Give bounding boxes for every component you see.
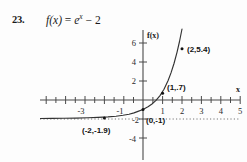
data-point-0--1 <box>142 108 145 111</box>
problem-number: 23. <box>12 14 25 25</box>
x-tick-label-3: 3 <box>199 106 203 116</box>
y-tick-label--4: -4 <box>129 134 137 144</box>
point-label--2--1.9: (-2,-1.9) <box>82 126 111 135</box>
x-axis-label: x <box>236 85 240 94</box>
y-tick-label-6: 6 <box>132 38 136 48</box>
point-label-2-5.4: (2,5.4) <box>187 45 210 54</box>
function-graph: f(x) x -3 -1 1 2 3 4 5 6 4 2 -2 -4 (2,5.… <box>40 28 247 162</box>
problem-page: 23. f(x) = ex − 2 <box>0 0 247 162</box>
x-tick-label-5: 5 <box>238 106 242 116</box>
y-tick-label--2: -2 <box>132 115 139 125</box>
y-tick-label-2: 2 <box>132 76 136 86</box>
x-tick-label-2: 2 <box>180 106 184 116</box>
y-tick-label-4: 4 <box>132 57 137 67</box>
point-label-0--1: (0,-1) <box>146 116 165 125</box>
x-tick-label-1: 1 <box>160 106 164 116</box>
x-tick-label--1: -1 <box>116 106 123 116</box>
problem-formula: f(x) = ex − 2 <box>46 12 101 26</box>
y-axis-label: f(x) <box>147 31 159 40</box>
point-label-1-0.7: (1,.7) <box>167 83 186 92</box>
data-point-1-0.7 <box>161 92 164 95</box>
formula-tail: − 2 <box>83 14 101 26</box>
x-tick-label--3: -3 <box>77 106 84 116</box>
data-point-2-5.4 <box>181 47 184 50</box>
graph-svg: f(x) x -3 -1 1 2 3 4 5 6 4 2 -2 -4 (2,5.… <box>40 28 247 162</box>
x-tick-label-4: 4 <box>219 106 224 116</box>
data-point--2--1.9 <box>103 117 106 120</box>
formula-equals: = <box>62 14 74 26</box>
formula-function-arg: (x) <box>49 14 62 26</box>
